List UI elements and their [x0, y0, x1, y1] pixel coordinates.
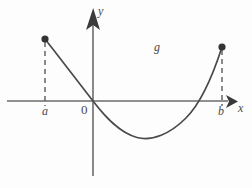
curve-g [45, 39, 222, 139]
x-axis-label: x [238, 102, 243, 114]
y-axis-label: y [98, 5, 103, 17]
graph-canvas [0, 0, 252, 188]
origin-label: 0 [81, 103, 88, 116]
tick-label-a: a [42, 105, 48, 117]
endpoint-dot-a [41, 35, 48, 42]
tick-label-b: b [218, 105, 224, 117]
function-label-g: g [154, 41, 160, 53]
function-graph-figure: y x a b 0 g [0, 0, 252, 188]
endpoint-dot-b [218, 43, 225, 50]
